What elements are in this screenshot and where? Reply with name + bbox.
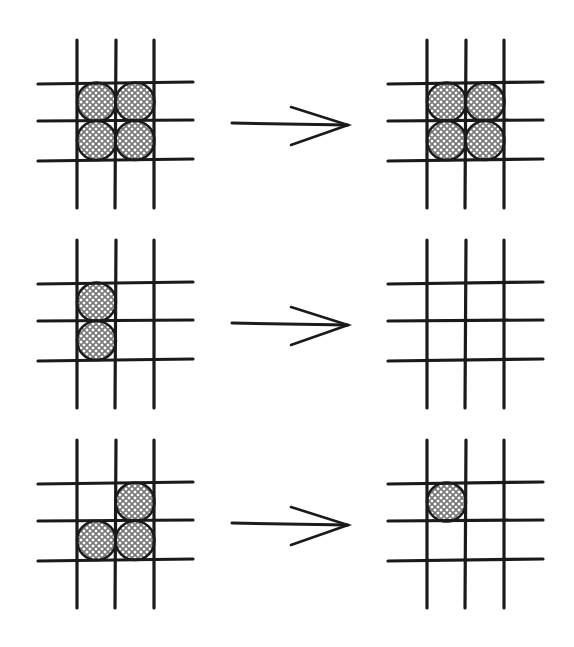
grid-before-1 xyxy=(38,40,193,208)
grid-line-vertical xyxy=(465,440,466,608)
stone-piece xyxy=(466,121,505,160)
grid-line-horizontal xyxy=(38,359,193,361)
grid-line-vertical xyxy=(465,240,466,408)
stone-piece xyxy=(116,83,155,122)
stone-piece xyxy=(77,121,116,160)
right-arrow-icon xyxy=(232,507,348,545)
grid-line-horizontal xyxy=(38,282,193,284)
grid-line-vertical xyxy=(465,40,466,208)
grid-line-horizontal xyxy=(388,520,543,521)
right-arrow-icon xyxy=(232,107,348,145)
grid-line-horizontal xyxy=(388,82,543,84)
stone-piece xyxy=(116,483,155,522)
stone-piece xyxy=(77,83,116,122)
stone-piece xyxy=(116,121,155,160)
stone-piece xyxy=(427,121,466,160)
grid-line-horizontal xyxy=(38,520,193,521)
stone-piece xyxy=(427,83,466,122)
stone-piece xyxy=(77,321,116,360)
grid-line-horizontal xyxy=(388,320,543,321)
grid-after-1 xyxy=(388,40,543,208)
grid-before-2 xyxy=(38,240,193,408)
grid-after-2 xyxy=(388,240,543,408)
grid-line-horizontal xyxy=(38,159,193,161)
stone-piece xyxy=(116,521,155,560)
grid-line-vertical xyxy=(115,440,116,608)
grid-line-horizontal xyxy=(38,559,193,561)
stone-piece xyxy=(466,83,505,122)
grid-before-3 xyxy=(38,440,193,608)
grid-line-horizontal xyxy=(388,482,543,484)
grid-line-horizontal xyxy=(388,120,543,121)
grid-line-horizontal xyxy=(388,559,543,561)
stone-piece xyxy=(427,483,466,522)
grid-line-horizontal xyxy=(38,482,193,484)
grid-line-vertical xyxy=(115,240,116,408)
diagram-canvas xyxy=(0,0,574,647)
grid-after-3 xyxy=(388,440,543,608)
grid-line-horizontal xyxy=(388,282,543,284)
stone-piece xyxy=(77,283,116,322)
grid-line-horizontal xyxy=(38,320,193,321)
right-arrow-icon xyxy=(232,307,348,345)
stone-piece xyxy=(77,521,116,560)
grid-line-horizontal xyxy=(388,159,543,161)
grid-line-horizontal xyxy=(388,359,543,361)
grid-line-vertical xyxy=(115,40,116,208)
grid-line-horizontal xyxy=(38,82,193,84)
grid-line-horizontal xyxy=(38,120,193,121)
